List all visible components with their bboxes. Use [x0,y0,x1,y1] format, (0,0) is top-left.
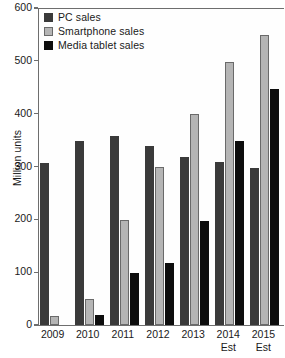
bar [75,141,84,325]
bar-group [215,8,244,325]
bar [225,62,234,325]
x-axis-label: 2009 [35,328,70,341]
x-axis-label: 2011 [105,328,140,341]
bar [250,168,259,325]
x-axis-label: 2012 [140,328,175,341]
bar [270,89,279,325]
legend-item: PC sales [44,11,144,23]
bar [130,273,139,325]
legend-label: Media tablet sales [58,39,144,51]
legend-label: PC sales [58,11,101,23]
y-axis-title: Million units [11,108,23,208]
bar [95,315,104,325]
x-axis-label-year: 2011 [112,328,135,340]
y-tick-label: 0 [26,318,32,330]
x-axis-label-year: 2013 [181,328,204,340]
legend-swatch-icon [44,27,53,36]
bars-layer [38,8,284,325]
bar-group [40,8,69,325]
bar [110,136,119,325]
bar-group [180,8,209,325]
legend-item: Smartphone sales [44,25,144,37]
x-axis-label-sublabel: Est [246,341,281,354]
legend-swatch-icon [44,13,53,22]
bar [155,167,164,325]
bar [260,35,269,325]
bar [215,162,224,325]
x-axis-labels: 200920102011201220132014Est2015Est [38,328,284,358]
legend-swatch-icon [44,41,53,50]
x-axis-label-year: 2012 [146,328,169,340]
y-tick-label: 300 [14,160,32,172]
x-axis-label: 2010 [70,328,105,341]
y-tick-label: 200 [14,212,32,224]
legend-label: Smartphone sales [58,25,144,37]
x-axis-label: 2013 [176,328,211,341]
x-axis-label: 2015Est [246,328,281,353]
y-tick-label: 500 [14,54,32,66]
x-axis-label-year: 2014 [217,328,240,340]
y-tick-label: 100 [14,265,32,277]
bar [85,299,94,325]
bar [50,316,59,326]
bar [145,146,154,325]
x-axis-label-year: 2009 [41,328,64,340]
bar [40,163,49,325]
y-tick-label: 400 [14,107,32,119]
bar [120,220,129,325]
y-tick-label: 600 [14,1,32,13]
bar [190,114,199,325]
chart-legend: PC salesSmartphone salesMedia tablet sal… [44,11,144,51]
bar-group [75,8,104,325]
bar [180,157,189,325]
x-axis-label-year: 2015 [252,328,275,340]
bar [165,263,174,325]
bar-group [110,8,139,325]
bar-group [145,8,174,325]
bar [200,221,209,325]
bar [235,141,244,325]
bar-chart: Million units 0100200300400500600 200920… [0,0,285,358]
legend-item: Media tablet sales [44,39,144,51]
x-axis-label-sublabel: Est [211,341,246,354]
bar-group [250,8,279,325]
x-axis-label-year: 2010 [76,328,99,340]
x-axis-label: 2014Est [211,328,246,353]
